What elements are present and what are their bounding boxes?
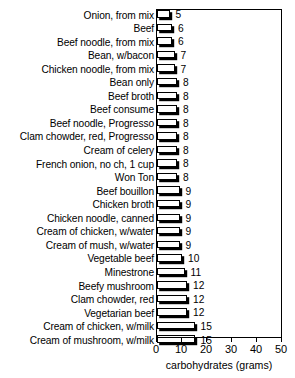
bar-track: 6: [157, 23, 295, 37]
bar: [157, 51, 175, 58]
bar-category-label: Cream of chicken, w/milk: [0, 322, 157, 332]
bar-row: Cream of chicken, w/water9: [0, 226, 295, 240]
bar-track: 7: [157, 63, 295, 77]
bar-track: 8: [157, 144, 295, 158]
bar-track: 9: [157, 199, 295, 213]
bar-category-label: Vegetable beef: [0, 254, 157, 264]
bar-category-label: Chicken noodle, canned: [0, 214, 157, 224]
bar-row: Beefy mushroom12: [0, 280, 295, 294]
bar-value-label: 8: [183, 77, 189, 89]
bar-track: 15: [157, 321, 295, 335]
bar: [157, 200, 180, 207]
bar-track: 12: [157, 293, 295, 307]
bar-value-label: 7: [181, 50, 187, 62]
bar-row: Clam chowder, red, Progresso8: [0, 131, 295, 145]
bar: [157, 281, 187, 288]
bar-track: 12: [157, 280, 295, 294]
bar-category-label: Beefy mushroom: [0, 282, 157, 292]
bar-value-label: 8: [183, 172, 189, 184]
bar-category-label: Beef: [0, 24, 157, 34]
bar-category-label: Cream of mush, w/water: [0, 241, 157, 251]
bar-value-label: 5: [176, 9, 182, 21]
bar-value-label: 12: [193, 280, 204, 292]
bar-category-label: Bean, w/bacon: [0, 51, 157, 61]
bar-row: Beef broth8: [0, 90, 295, 104]
bar-value-label: 8: [183, 145, 189, 157]
bar-value-label: 12: [193, 307, 204, 319]
bar-track: 10: [157, 253, 295, 267]
bar: [157, 241, 180, 248]
bar-row: Beef bouillon9: [0, 185, 295, 199]
bar-row: French onion, no ch, 1 cup8: [0, 158, 295, 172]
bar-category-label: Cream of celery: [0, 146, 157, 156]
bar-row: Clam chowder, red12: [0, 293, 295, 307]
bar-row: Chicken broth9: [0, 199, 295, 213]
bar-track: 8: [157, 90, 295, 104]
x-tick-mark: [256, 337, 257, 342]
bar: [157, 308, 187, 315]
bar-category-label: Vegetarian beef: [0, 309, 157, 319]
bar-value-label: 8: [183, 118, 189, 130]
bar-value-label: 12: [193, 294, 204, 306]
bar-value-label: 6: [178, 23, 184, 35]
bar-row: Minestrone11: [0, 266, 295, 280]
bar-row: Won Ton8: [0, 172, 295, 186]
bar-row: Chicken noodle, canned9: [0, 212, 295, 226]
bar-track: 8: [157, 172, 295, 186]
bar: [157, 254, 182, 261]
x-tick-label: 50: [266, 343, 295, 355]
bar: [157, 186, 180, 193]
bar-track: 9: [157, 185, 295, 199]
bar-track: 6: [157, 36, 295, 50]
bar-value-label: 9: [186, 213, 192, 225]
bar-row: Cream of mush, w/water9: [0, 239, 295, 253]
bar-track: 8: [157, 117, 295, 131]
x-axis-line: [156, 337, 282, 338]
bar-track: 12: [157, 307, 295, 321]
x-tick-mark: [181, 337, 182, 342]
bar: [157, 173, 177, 180]
bar-track: 8: [157, 104, 295, 118]
x-tick-mark: [156, 337, 157, 342]
bar-category-label: Beef noodle, Progresso: [0, 119, 157, 129]
bar-row: Cream of celery8: [0, 144, 295, 158]
bar-category-label: Cream of chicken, w/water: [0, 227, 157, 237]
bar-track: 11: [157, 266, 295, 280]
x-axis-title: carbohydrates (grams): [156, 359, 282, 371]
bar-category-label: Beef consume: [0, 105, 157, 115]
bar: [157, 132, 177, 139]
bar-row: Bean only8: [0, 77, 295, 91]
bar: [157, 64, 175, 71]
bar: [157, 105, 177, 112]
bar-track: 7: [157, 50, 295, 64]
bar-value-label: 10: [188, 253, 199, 265]
bar-category-label: Chicken noodle, from mix: [0, 65, 157, 75]
bar-value-label: 8: [183, 104, 189, 116]
bar-track: 8: [157, 158, 295, 172]
bar-row: Cream of chicken, w/milk15: [0, 321, 295, 335]
bar-row: Vegetable beef10: [0, 253, 295, 267]
bar-row: Beef consume8: [0, 104, 295, 118]
bar-row: Beef noodle, Progresso8: [0, 117, 295, 131]
bar-rows-container: Onion, from mix5Beef6Beef noodle, from m…: [0, 9, 295, 348]
bar-track: 9: [157, 226, 295, 240]
bar: [157, 159, 177, 166]
bar-track: 9: [157, 212, 295, 226]
bar-category-label: French onion, no ch, 1 cup: [0, 160, 157, 170]
bar-track: 8: [157, 77, 295, 91]
bar: [157, 10, 170, 17]
bar-category-label: Clam chowder, red: [0, 295, 157, 305]
x-tick-mark: [231, 337, 232, 342]
bar-row: Bean, w/bacon7: [0, 50, 295, 64]
bar-row: Beef noodle, from mix6: [0, 36, 295, 50]
carbohydrates-bar-chart: Onion, from mix5Beef6Beef noodle, from m…: [0, 0, 295, 378]
bar-category-label: Beef bouillon: [0, 187, 157, 197]
bar-value-label: 15: [201, 321, 212, 333]
bar: [157, 322, 195, 329]
bar: [157, 92, 177, 99]
bar-category-label: Beef broth: [0, 92, 157, 102]
bar: [157, 24, 172, 31]
bar-category-label: Won Ton: [0, 173, 157, 183]
bar-category-label: Minestrone: [0, 268, 157, 278]
bar-value-label: 9: [186, 186, 192, 198]
